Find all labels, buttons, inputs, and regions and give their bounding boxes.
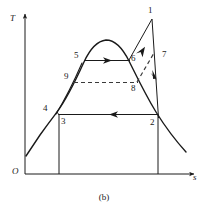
axis-group: [25, 14, 194, 174]
state-label-5: 5: [74, 51, 79, 60]
process-5-6: [84, 57, 130, 64]
state-label-1: 1: [148, 6, 153, 15]
state-label-7: 7: [162, 50, 167, 59]
axis-label-T: T: [10, 14, 15, 23]
figure-caption: (b): [0, 192, 208, 202]
process-8-7-dashed: [137, 53, 154, 82]
process-2-3: [59, 111, 158, 118]
state-label-9: 9: [64, 72, 69, 81]
state-label-3: 3: [61, 117, 66, 126]
process-4-5: [56, 63, 82, 114]
axis-label-s: s: [193, 173, 197, 182]
ts-diagram-svg: [0, 0, 208, 216]
state-label-2: 2: [150, 118, 155, 127]
figure-canvas: T s O 1 2 3 4 5 6 7 8 9 (b): [0, 0, 208, 216]
state-label-6: 6: [131, 54, 136, 63]
process-1-2: [151, 19, 159, 118]
state-label-4: 4: [43, 104, 48, 113]
state-label-8: 8: [131, 84, 136, 93]
axis-origin-label: O: [12, 167, 19, 176]
